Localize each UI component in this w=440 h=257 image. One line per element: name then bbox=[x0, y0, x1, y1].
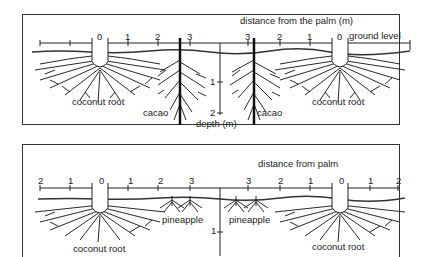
bottom-tick-left-1a: 1 bbox=[68, 176, 73, 186]
bottom-tick-right-0: 0 bbox=[339, 176, 344, 186]
bottom-tick-right-1a: 1 bbox=[308, 176, 313, 186]
top-depth-tick-1: 1 bbox=[210, 77, 215, 87]
ground-level-label: ground level bbox=[349, 31, 401, 41]
bottom-tick-right-3: 3 bbox=[246, 176, 251, 186]
bottom-tick-left-2a: 2 bbox=[38, 176, 43, 186]
coconut-root-label-top-right: coconut root bbox=[312, 97, 364, 107]
top-ground-line bbox=[32, 49, 410, 55]
coconut-root-label-bottom-left: coconut root bbox=[73, 244, 125, 254]
cacao-label-left: cacao bbox=[143, 108, 168, 118]
top-axis-title: distance from the palm (m) bbox=[240, 16, 353, 26]
top-tick-right-0: 0 bbox=[337, 32, 342, 42]
pineapple-label-left: pineapple bbox=[162, 215, 203, 225]
top-tick-left-0: 0 bbox=[97, 32, 102, 42]
coconut-root-label-bottom-right: coconut root bbox=[312, 242, 364, 252]
top-tick-left-1: 1 bbox=[125, 32, 130, 42]
top-tick-right-1: 1 bbox=[307, 32, 312, 42]
bottom-tick-left-2b: 2 bbox=[158, 176, 163, 186]
top-tick-right-2: 2 bbox=[277, 32, 282, 42]
bottom-tick-left-3: 3 bbox=[189, 176, 194, 186]
coconut-trunk-right-top bbox=[332, 38, 348, 67]
bottom-tick-right-1b: 1 bbox=[368, 176, 373, 186]
depth-label: depth (m) bbox=[196, 119, 237, 129]
bottom-tick-left-0: 0 bbox=[99, 176, 104, 186]
top-tick-left-2: 2 bbox=[155, 32, 160, 42]
top-tick-right-3: 3 bbox=[245, 32, 250, 42]
bottom-tick-right-2a: 2 bbox=[278, 176, 283, 186]
cacao-label-right: cacao bbox=[257, 108, 282, 118]
top-depth-tick-2: 2 bbox=[210, 108, 215, 118]
bottom-tick-right-2b: 2 bbox=[396, 176, 401, 186]
bottom-axis-title: distance from palm bbox=[258, 159, 338, 169]
top-tick-left-3: 3 bbox=[187, 32, 192, 42]
bottom-tick-left-1b: 1 bbox=[128, 176, 133, 186]
pineapple-label-right: pineapple bbox=[229, 215, 270, 225]
bottom-depth-tick-1: 1 bbox=[211, 226, 216, 236]
coconut-trunk-left-top bbox=[92, 38, 108, 67]
coconut-root-label-top-left: coconut root bbox=[72, 97, 124, 107]
